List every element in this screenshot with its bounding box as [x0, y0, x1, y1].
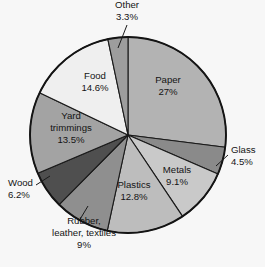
slice-label-line: 9% — [77, 239, 91, 250]
slice-label-line: Paper — [155, 74, 181, 85]
pie-chart-svg: Paper27%Glass4.5%Metals9.1%Plastics12.8%… — [0, 0, 265, 267]
slice-label-line: 12.8% — [120, 191, 148, 202]
slice-label-line: 14.6% — [81, 82, 109, 93]
slice-label-metals: Metals9.1% — [163, 164, 191, 187]
slice-label-line: Glass — [231, 144, 256, 155]
slice-label-line: Yard — [61, 110, 81, 121]
slice-label-line: Other — [115, 0, 140, 10]
slice-label-line: Plastics — [117, 179, 150, 190]
slice-label-line: trimmings — [50, 122, 92, 133]
slice-label-line: 3.3% — [116, 11, 138, 22]
pie-chart-figure: Paper27%Glass4.5%Metals9.1%Plastics12.8%… — [0, 0, 265, 267]
slice-label-wood: Wood6.2% — [8, 177, 33, 200]
slice-label-line: 6.2% — [8, 189, 30, 200]
slice-label-line: Food — [84, 70, 106, 81]
slice-label-line: 13.5% — [57, 134, 85, 145]
slice-label-food: Food14.6% — [81, 70, 109, 93]
slice-label-line: Rubber, — [67, 215, 101, 226]
slice-label-line: Metals — [163, 164, 191, 175]
slice-label-line: leather, textiles — [52, 227, 116, 238]
slice-label-plastics: Plastics12.8% — [117, 179, 150, 202]
slice-label-line: 9.1% — [166, 176, 188, 187]
slice-label-other: Other3.3% — [115, 0, 140, 22]
slice-label-line: Wood — [8, 177, 33, 188]
slice-label-line: 27% — [158, 86, 178, 97]
slice-label-glass: Glass4.5% — [231, 144, 256, 167]
slice-label-line: 4.5% — [231, 156, 253, 167]
